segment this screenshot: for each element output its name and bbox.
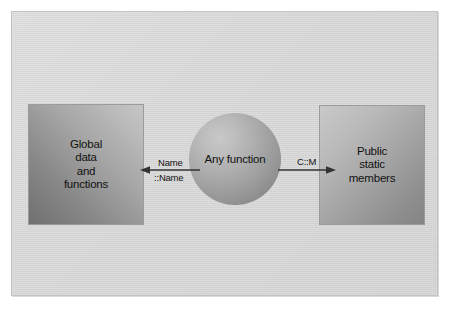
node-any-function: Any function <box>189 113 281 205</box>
node-global-label: Global data and functions <box>64 138 108 192</box>
edge-left-label-top: Name <box>158 157 183 168</box>
edge-right-label: C::M <box>297 156 316 167</box>
node-global-data-and-functions: Global data and functions <box>28 104 144 225</box>
diagram-frame: Global data and functions Any function P… <box>11 11 438 296</box>
edge-left-label-bottom: ::Name <box>154 172 183 183</box>
node-public-static-label: Public static members <box>349 145 396 186</box>
diagram-canvas: Global data and functions Any function P… <box>0 0 451 314</box>
node-any-function-label: Any function <box>205 153 266 166</box>
